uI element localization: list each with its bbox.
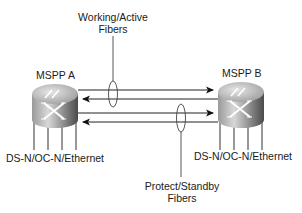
protect-fibers-label-line2: Fibers: [145, 192, 220, 204]
working-fibers-label-line1: Working/Active: [78, 11, 148, 23]
protect-fibers-callout: [177, 104, 186, 177]
protect-fibers-label: Protect/Standby Fibers: [145, 180, 220, 204]
mspp-a-interfaces-label: DS-N/OC-N/Ethernet: [6, 152, 104, 164]
mspp-a-label: MSPP A: [36, 69, 75, 81]
mspp-b-router-icon: [218, 82, 264, 150]
mspp-b-label: MSPP B: [222, 67, 262, 79]
mspp-a-router-icon: [32, 84, 78, 150]
working-fibers-label: Working/Active Fibers: [78, 11, 148, 35]
working-fibers-callout: [109, 36, 118, 107]
mspp-b-interfaces-label: DS-N/OC-N/Ethernet: [194, 150, 292, 162]
working-fibers-label-line2: Fibers: [78, 23, 148, 35]
protect-fibers-label-line1: Protect/Standby: [145, 180, 220, 192]
